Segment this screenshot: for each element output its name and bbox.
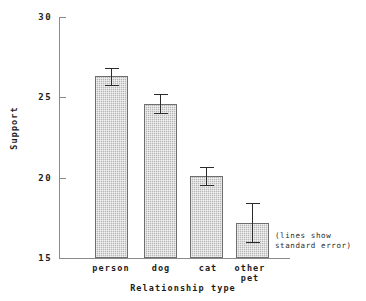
y-tick-label-30: 30 (22, 12, 52, 22)
x-axis-title: Relationship type (0, 283, 366, 293)
y-axis-title: Support (9, 98, 19, 158)
y-tick-15 (59, 258, 66, 259)
error-cap-lower (246, 242, 260, 243)
x-axis-line (59, 258, 290, 259)
error-stem (206, 167, 207, 185)
bar-cat[interactable] (190, 176, 223, 258)
bar-person[interactable] (95, 76, 128, 258)
y-tick-25 (59, 97, 66, 98)
error-cap-lower (105, 85, 119, 86)
error-cap-lower (154, 113, 168, 114)
error-cap-upper (246, 203, 260, 204)
bar-chart: 30 25 20 15 person dog cat other pet Rel… (0, 0, 366, 301)
y-tick-label-15: 15 (22, 253, 52, 263)
bar-dog[interactable] (144, 104, 177, 258)
error-cap-upper (200, 167, 214, 168)
error-cap-lower (200, 185, 214, 186)
y-tick-30 (59, 17, 66, 18)
y-axis-line (59, 17, 60, 258)
x-tick-label-other-pet: other pet (215, 263, 285, 283)
error-cap-upper (154, 94, 168, 95)
y-tick-label-25: 25 (22, 92, 52, 102)
error-stem (111, 68, 112, 86)
error-stem (252, 203, 253, 242)
error-bar-annotation: (lines show standard error) (275, 231, 352, 251)
error-stem (160, 94, 161, 113)
y-tick-20 (59, 178, 66, 179)
y-tick-label-20: 20 (22, 173, 52, 183)
error-cap-upper (105, 68, 119, 69)
